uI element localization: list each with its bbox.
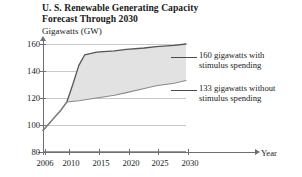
with-stimulus-callout-line-2: stimulus spending xyxy=(199,61,264,71)
y-tick-label-80: 80 xyxy=(0,148,40,157)
x-tick-label-2030: 2030 xyxy=(181,159,198,168)
x-axis-arrow-icon xyxy=(255,149,260,155)
chart-title-line-2: Forecast Through 2030 xyxy=(42,13,272,24)
y-tick-160 xyxy=(40,44,46,45)
plot-area xyxy=(43,44,186,152)
x-tick-label-2006: 2006 xyxy=(36,159,53,168)
y-tick-140 xyxy=(40,71,46,72)
uncertainty-band xyxy=(43,44,186,130)
x-tick-2020 xyxy=(129,149,130,155)
y-axis-arrow-icon xyxy=(40,36,46,41)
series-plot xyxy=(43,44,186,152)
y-tick-label-100: 100 xyxy=(0,121,40,130)
x-axis-line xyxy=(38,152,256,153)
x-tick-label-2025: 2025 xyxy=(151,159,168,168)
x-tick-2010 xyxy=(69,149,70,155)
with-stimulus-leader-line xyxy=(171,57,197,58)
y-tick-label-160: 160 xyxy=(0,40,40,49)
x-tick-2015 xyxy=(99,149,100,155)
chart-figure: U. S. Renewable Generating Capacity Fore… xyxy=(0,0,302,177)
x-tick-2030 xyxy=(188,149,189,155)
x-tick-2006 xyxy=(45,149,46,155)
without-stimulus-leader-line xyxy=(171,90,197,91)
without-stimulus-callout: 133 gigawatts without stimulus spending xyxy=(199,84,275,104)
y-tick-label-120: 120 xyxy=(0,94,40,103)
y-tick-120 xyxy=(40,98,46,99)
x-axis-title: Year xyxy=(261,148,277,158)
x-tick-label-2020: 2020 xyxy=(122,159,139,168)
y-tick-100 xyxy=(40,125,46,126)
y-axis-unit-label: Gigawatts (GW) xyxy=(42,26,102,37)
x-tick-label-2010: 2010 xyxy=(62,159,79,168)
chart-title-line-1: U. S. Renewable Generating Capacity xyxy=(42,2,272,13)
with-stimulus-callout: 160 gigawatts with stimulus spending xyxy=(199,51,264,71)
x-tick-label-2015: 2015 xyxy=(92,159,109,168)
y-tick-label-140: 140 xyxy=(0,67,40,76)
chart-title: U. S. Renewable Generating Capacity Fore… xyxy=(42,2,272,25)
without-stimulus-callout-line-2: stimulus spending xyxy=(199,94,275,104)
x-tick-2025 xyxy=(158,149,159,155)
